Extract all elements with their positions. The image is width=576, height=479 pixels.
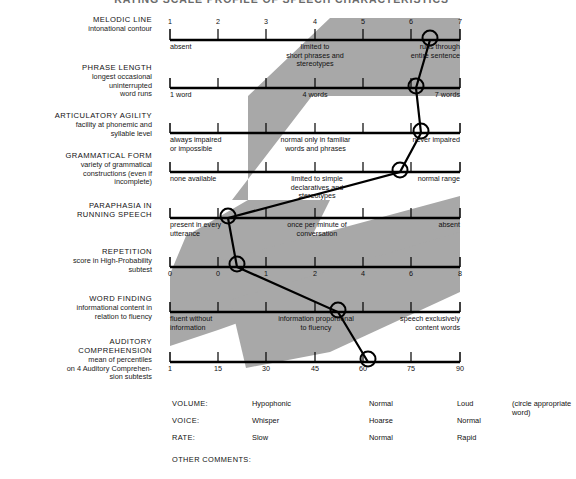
scale-label-word-finding: WORD FINDING informational content in re… <box>0 295 152 321</box>
other-comments-label: OTHER COMMENTS: <box>172 455 251 464</box>
form-row-volume: VOLUME: Hypophonic Normal Loud (circle a… <box>172 399 563 416</box>
anchor-center: information proportional to fluency <box>248 315 384 332</box>
scale-subtitle: mean of percentiles on 4 Auditory Compre… <box>0 356 152 382</box>
anchor-right: 7 words <box>390 91 460 100</box>
tick-label: 1 <box>161 364 179 373</box>
anchor-center: limited to short phrases and stereotypes <box>255 43 375 69</box>
voice-option-whisper[interactable]: Whisper <box>252 416 279 425</box>
tick-label: 4 <box>306 17 324 26</box>
anchor-right: speech exclusively content words <box>378 315 460 332</box>
tick-label: 0 <box>161 269 179 278</box>
rate-option-rapid[interactable]: Rapid <box>457 433 476 442</box>
tick-label: 7 <box>451 17 469 26</box>
voice-option-hoarse[interactable]: Hoarse <box>369 416 393 425</box>
anchor-right: runs through entire sentence <box>380 43 460 60</box>
form-label-voice: VOICE: <box>172 416 199 425</box>
form-row-rate: RATE: Slow Normal Rapid <box>172 433 563 450</box>
anchor-center: 4 words <box>265 91 365 100</box>
scale-subtitle: informational content in relation to flu… <box>0 304 152 321</box>
scale-label-auditory-comprehension: AUDITORY COMPREHENSION mean of percentil… <box>0 338 152 382</box>
form-row-voice: VOICE: Whisper Hoarse Normal <box>172 416 563 433</box>
form-label-rate: RATE: <box>172 433 195 442</box>
anchor-center: once per minute of conversation <box>255 221 379 238</box>
scale-subtitle: score in High-Probability subtest <box>0 257 152 274</box>
tick-label: 8 <box>451 269 469 278</box>
volume-option-loud[interactable]: Loud <box>457 399 473 408</box>
anchor-left: 1 word <box>170 91 192 100</box>
rate-option-slow[interactable]: Slow <box>252 433 268 442</box>
anchor-center: limited to simple declaratives and stere… <box>258 175 376 201</box>
anchor-left: always impaired or impossible <box>170 136 222 153</box>
scale-label-repetition: REPETITION score in High-Probability sub… <box>0 248 152 274</box>
tick-label: 60 <box>354 364 372 373</box>
anchor-right: normal range <box>385 175 460 184</box>
speech-characteristics-form: VOLUME: Hypophonic Normal Loud (circle a… <box>172 399 563 450</box>
scale-subtitle: facility at phonemic and syllable level <box>0 121 152 138</box>
scale-axis-auditory-comprehension <box>170 352 460 362</box>
anchor-left: present in every utterance <box>170 221 221 238</box>
volume-option-normal[interactable]: Normal <box>369 399 393 408</box>
tick-label: 1 <box>257 269 275 278</box>
anchor-right: absent <box>400 221 460 230</box>
scale-subtitle: intonational contour <box>0 25 152 34</box>
circle-appropriate-word-note: (circle appropriate word) <box>512 399 576 418</box>
tick-label: 90 <box>451 364 469 373</box>
tick-label: 6 <box>402 269 420 278</box>
scale-subtitle: longest occasional uninterrupted word ru… <box>0 73 152 99</box>
tick-label: 30 <box>257 364 275 373</box>
tick-label: 0 <box>209 269 227 278</box>
form-label-volume: VOLUME: <box>172 399 208 408</box>
tick-label: 3 <box>257 17 275 26</box>
scale-subtitle: variety of grammatical constructions (ev… <box>0 161 152 187</box>
scale-label-paraphasia: PARAPHASIA IN RUNNING SPEECH <box>0 202 152 220</box>
anchor-right: never impaired <box>382 136 460 145</box>
tick-label: 45 <box>306 364 324 373</box>
anchor-center: normal only in familiar words and phrase… <box>248 136 383 153</box>
tick-label: 6 <box>402 17 420 26</box>
scale-name: AUDITORY COMPREHENSION <box>0 338 152 356</box>
scale-axis-grammatical-form <box>170 162 460 172</box>
tick-label: 5 <box>354 17 372 26</box>
tick-label: 15 <box>209 364 227 373</box>
anchor-left: fluent without information <box>170 315 212 332</box>
tick-label: 2 <box>209 17 227 26</box>
tick-label: 75 <box>402 364 420 373</box>
anchor-left: absent <box>170 43 192 52</box>
volume-option-hypophonic[interactable]: Hypophonic <box>252 399 291 408</box>
anchor-left: none available <box>170 175 216 184</box>
tick-label: 4 <box>354 269 372 278</box>
scale-label-articulatory-agility: ARTICULATORY AGILITY facility at phonemi… <box>0 112 152 138</box>
scale-label-melodic-line: MELODIC LINE intonational contour <box>0 16 152 34</box>
scale-label-grammatical-form: GRAMMATICAL FORM variety of grammatical … <box>0 152 152 187</box>
voice-option-normal[interactable]: Normal <box>457 416 481 425</box>
rate-option-normal[interactable]: Normal <box>369 433 393 442</box>
tick-label: 1 <box>161 17 179 26</box>
scale-name: PARAPHASIA IN RUNNING SPEECH <box>0 202 152 220</box>
tick-label: 2 <box>306 269 324 278</box>
scale-label-phrase-length: PHRASE LENGTH longest occasional uninter… <box>0 64 152 99</box>
